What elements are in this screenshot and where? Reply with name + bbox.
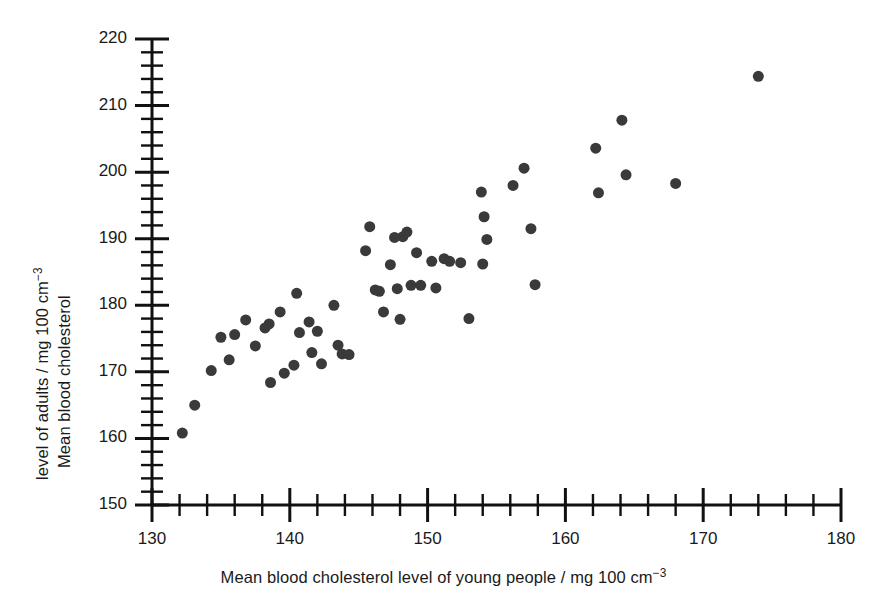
data-point — [328, 300, 339, 311]
data-point — [275, 306, 286, 317]
x-tick-label: 160 — [530, 529, 600, 549]
data-point — [519, 163, 530, 174]
data-point — [240, 314, 251, 325]
data-point — [385, 259, 396, 270]
data-point — [406, 280, 417, 291]
data-point — [476, 187, 487, 198]
data-point — [426, 256, 437, 267]
data-point — [344, 349, 355, 360]
y-tick-label: 190 — [65, 228, 127, 248]
data-point — [265, 377, 276, 388]
x-tick-label: 130 — [117, 529, 187, 549]
data-point — [304, 316, 315, 327]
data-point — [177, 428, 188, 439]
data-point — [593, 187, 604, 198]
data-point — [229, 329, 240, 340]
data-point — [224, 354, 235, 365]
x-tick-label: 150 — [393, 529, 463, 549]
y-tick-label: 210 — [65, 95, 127, 115]
data-point — [306, 347, 317, 358]
data-point — [392, 283, 403, 294]
y-tick-label: 160 — [65, 427, 127, 447]
data-point — [316, 358, 327, 369]
data-point — [364, 221, 375, 232]
data-point — [250, 340, 261, 351]
y-tick-label: 200 — [65, 161, 127, 181]
data-point — [430, 282, 441, 293]
data-point — [411, 247, 422, 258]
data-point — [616, 115, 627, 126]
y-tick-label: 180 — [65, 294, 127, 314]
data-point — [401, 227, 412, 238]
data-point — [508, 180, 519, 191]
data-point — [312, 326, 323, 337]
data-point — [479, 211, 490, 222]
data-point — [288, 360, 299, 371]
data-points — [177, 71, 764, 439]
data-point — [415, 280, 426, 291]
y-tick-label: 170 — [65, 361, 127, 381]
data-point — [455, 257, 466, 268]
axes — [135, 38, 841, 522]
data-point — [670, 178, 681, 189]
plot-area — [0, 0, 887, 613]
data-point — [444, 256, 455, 267]
data-point — [279, 368, 290, 379]
data-point — [260, 322, 271, 333]
data-point — [360, 245, 371, 256]
y-tick-label: 150 — [65, 494, 127, 514]
x-tick-label: 140 — [255, 529, 325, 549]
data-point — [590, 143, 601, 154]
data-point — [291, 288, 302, 299]
y-tick-label: 220 — [65, 28, 127, 48]
data-point — [753, 71, 764, 82]
data-point — [481, 234, 492, 245]
data-point — [378, 306, 389, 317]
data-point — [530, 279, 541, 290]
data-point — [395, 314, 406, 325]
data-point — [374, 286, 385, 297]
scatter-chart-figure: Mean blood cholesterol level of adults /… — [0, 0, 887, 613]
data-point — [621, 169, 632, 180]
data-point — [477, 259, 488, 270]
data-point — [294, 327, 305, 338]
data-point — [206, 365, 217, 376]
data-point — [525, 223, 536, 234]
data-point — [215, 332, 226, 343]
x-tick-label: 170 — [668, 529, 738, 549]
data-point — [463, 313, 474, 324]
x-tick-label: 180 — [806, 529, 876, 549]
data-point — [189, 400, 200, 411]
